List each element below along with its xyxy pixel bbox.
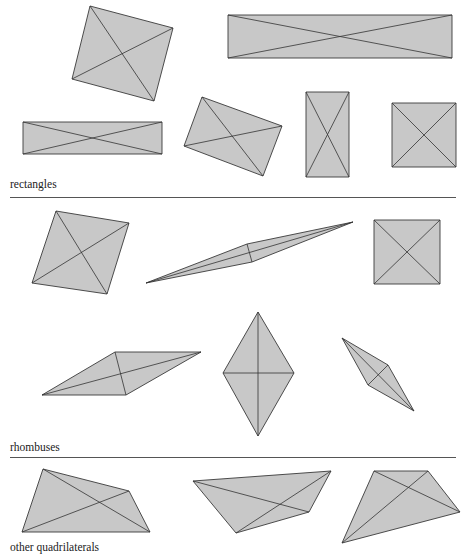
rect-wide-top <box>228 15 452 58</box>
rect-wide-left <box>23 122 162 154</box>
rect-tilted-small <box>184 97 282 176</box>
quadrilateral-outline <box>193 471 331 533</box>
quadrilateral-diagram <box>0 0 465 560</box>
rect-square <box>392 103 456 167</box>
section-label-rhombuses: rhombuses <box>10 441 60 453</box>
rhombus-tilted-square <box>32 211 129 294</box>
quadrilateral-outline <box>223 312 294 436</box>
quadrilateral-outline <box>32 211 129 294</box>
divider-rhombuses <box>10 457 456 458</box>
section-rectangles <box>23 6 456 177</box>
section-other-quadrilaterals <box>22 469 460 543</box>
section-label-other-quadrilaterals: other quadrilaterals <box>10 541 99 553</box>
section-label-rectangles: rectangles <box>10 178 57 190</box>
rhombus-needle <box>146 222 353 283</box>
divider-rectangles <box>10 197 456 198</box>
section-rhombuses <box>32 211 440 436</box>
rhombus-square <box>374 220 440 284</box>
quad-3 <box>342 471 460 543</box>
quadrilateral-outline <box>22 469 150 532</box>
rhombus-vertical <box>223 312 294 436</box>
rhombus-diagonal <box>342 338 414 411</box>
rhombus-flat <box>42 352 201 395</box>
quad-1 <box>22 469 150 532</box>
quad-2 <box>193 471 331 533</box>
rect-tall <box>306 92 349 177</box>
rect-tilted-large <box>72 6 173 101</box>
quadrilateral-outline <box>342 471 460 543</box>
